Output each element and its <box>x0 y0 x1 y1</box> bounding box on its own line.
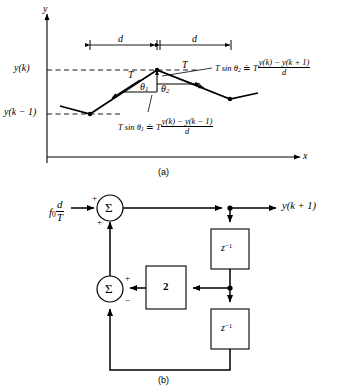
formula-upper-lead-sub: 2 <box>238 67 241 73</box>
panel-a-axes <box>47 14 300 163</box>
formula-upper-lead: T sin θ <box>215 63 238 73</box>
theta2-subscript: 2 <box>166 87 169 94</box>
gain-block-label: 2 <box>163 281 169 292</box>
input-fraction-numerator: d <box>56 199 64 212</box>
summer-bottom-down-sign: − <box>125 296 130 305</box>
summer-top-symbol: Σ <box>105 201 113 214</box>
summer-bottom-right-sign: + <box>125 274 130 283</box>
formula-lower-denominator: d <box>161 127 214 136</box>
formula-upper-denominator: d <box>258 68 311 77</box>
panel-b-input-label: f0dT <box>49 199 64 223</box>
panel-a-angle-theta2-label: θ2 <box>161 84 169 95</box>
formula-lower-fraction: y(k) − y(k − 1)d <box>161 117 214 136</box>
panel-a-tension-left-label: T <box>128 70 134 80</box>
panel-a-tension-right-label: T <box>182 60 188 70</box>
formula-upper-relation: ≐ <box>243 63 251 73</box>
panel-a-caption: (a) <box>158 168 169 177</box>
summer-bottom-symbol: Σ <box>105 282 113 295</box>
panel-a-leader-lines <box>148 68 212 112</box>
panel-a-formula-lower: T sin θ1 ≐ Ty(k) − y(k − 1)d <box>118 117 213 136</box>
summer-top-input-sign: + <box>92 194 97 203</box>
panel-b-caption: (b) <box>158 376 169 385</box>
panel-a-formula-upper: T sin θ2 ≐ Ty(k) − y(k + 1)d <box>215 58 310 77</box>
input-fraction-denominator: T <box>56 212 64 224</box>
panel-a-ytick-upper-label: y(k) <box>14 63 30 73</box>
formula-lower-relation: ≐ <box>146 122 154 132</box>
delay-bottom-exponent: −1 <box>225 322 232 330</box>
delay-top-label: z−1 <box>221 243 232 253</box>
theta1-subscript: 1 <box>145 85 148 92</box>
panel-a-angle-theta1-label: θ1 <box>140 82 148 93</box>
input-fraction: dT <box>56 199 64 223</box>
panel-a-axis-y-label: y <box>43 4 47 14</box>
panel-a-axis-x-label: x <box>303 151 307 161</box>
panel-b-output-label: y(k + 1) <box>282 201 316 212</box>
formula-upper-fraction: y(k) − y(k + 1)d <box>258 58 311 77</box>
panel-a-span-markers <box>90 40 231 50</box>
panel-a-span-left-label: d <box>118 34 123 44</box>
formula-lower-lead: T sin θ <box>118 122 141 132</box>
delay-bottom-label: z−1 <box>221 323 232 333</box>
figure-container: y x y(k) y(k − 1) d d T T θ1 θ2 T sin θ2… <box>0 0 338 392</box>
formula-lower-lead-sub: 1 <box>141 126 144 132</box>
delay-top-exponent: −1 <box>225 242 232 250</box>
summer-top-feedback-sign: + <box>97 218 102 227</box>
panel-a-span-right-label: d <box>192 34 197 44</box>
panel-a-ytick-lower-label: y(k − 1) <box>4 107 36 117</box>
